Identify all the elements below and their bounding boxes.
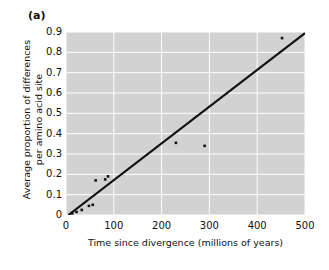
x-tick-label: 400 (237, 220, 277, 231)
x-tick-label: 100 (94, 220, 134, 231)
y-axis-title: Average proportion of differences per am… (21, 20, 44, 220)
x-axis-tick-labels: 0100200300400500 (0, 0, 329, 270)
x-axis-title: Time since divergence (millions of years… (66, 237, 305, 248)
x-tick-label: 0 (46, 220, 86, 231)
y-axis-title-line-2: per amino acid site (32, 20, 44, 220)
figure-panel: (a) 00.10.20.30.40.50.60.70.80.9 0100200… (0, 0, 329, 270)
y-axis-title-line-1: Average proportion of differences (21, 20, 33, 220)
x-tick-label: 300 (189, 220, 229, 231)
x-tick-label: 500 (285, 220, 325, 231)
x-tick-label: 200 (142, 220, 182, 231)
